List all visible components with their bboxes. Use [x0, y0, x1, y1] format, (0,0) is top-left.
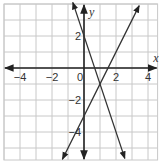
y-axis-label: y — [88, 5, 95, 19]
x-tick-label: 0 — [77, 71, 83, 83]
coordinate-plane: −4−20242−2−4xy — [0, 0, 163, 162]
y-tick-label: 2 — [75, 30, 81, 42]
y-tick-label: −4 — [68, 126, 81, 138]
y-tick-label: −2 — [68, 94, 81, 106]
x-tick-label: 4 — [145, 71, 151, 83]
x-tick-label: 2 — [113, 71, 119, 83]
x-axis-label: x — [152, 51, 159, 65]
x-tick-label: −2 — [46, 71, 59, 83]
x-tick-label: −4 — [14, 71, 27, 83]
